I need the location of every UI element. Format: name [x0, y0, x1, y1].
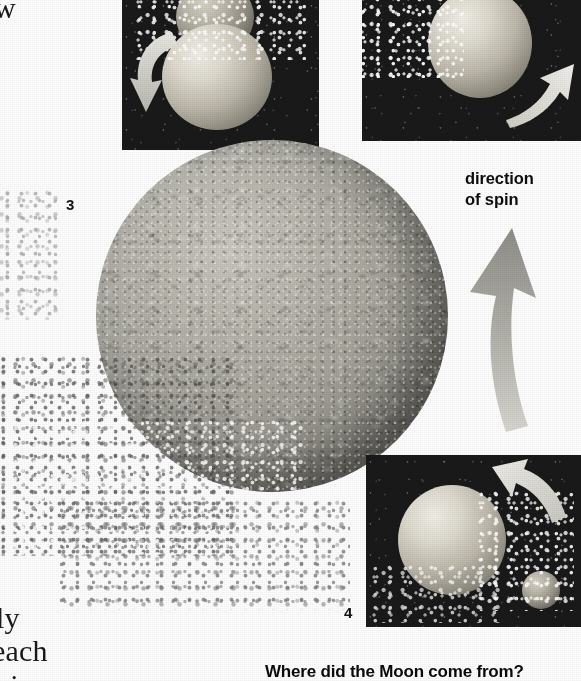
- panel-2-ejecta: [362, 0, 581, 141]
- figure-page: w ly each t i 1: [0, 0, 581, 681]
- panel-number-2: 2: [344, 0, 352, 3]
- forming-moon: [522, 571, 560, 609]
- body-text-fragment-4: t i: [0, 667, 19, 681]
- debris-ring-tail: [60, 500, 350, 610]
- planet-surface-speckle: [96, 140, 448, 492]
- panel-number-3: 3: [66, 196, 74, 213]
- spin-arrow-panel-1: [128, 28, 192, 116]
- spin-label-line-1: direction: [465, 168, 534, 189]
- body-text-fragment-2: ly: [0, 600, 20, 637]
- debris-upper-left-wisp: [0, 190, 60, 320]
- body-text-fragment-1: w: [0, 0, 16, 27]
- spin-arrow-panel-2: [502, 58, 581, 128]
- direction-of-spin-label: direction of spin: [465, 168, 534, 210]
- panel-1-impact: [122, 0, 319, 150]
- direction-of-spin-arrow: [452, 226, 570, 444]
- main-proto-earth-planet: [96, 140, 448, 492]
- figure-caption: Where did the Moon come from?: [265, 662, 524, 681]
- spin-label-line-2: of spin: [465, 189, 534, 210]
- panel-4-moon-forming: [366, 455, 581, 627]
- spin-arrow-panel-4: [490, 457, 576, 529]
- body-text-fragment-3: each: [0, 633, 48, 670]
- panel-number-4: 4: [344, 604, 352, 621]
- panel-number-1: 1: [104, 0, 112, 3]
